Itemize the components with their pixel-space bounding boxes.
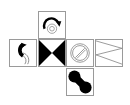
bowtie-icon [39,40,65,66]
prohibited-circle-icon [67,40,93,66]
face-bottom [66,68,94,96]
curved-arrow-circle-icon [39,12,65,38]
zigzag-icon [96,40,122,66]
face-left [9,39,37,67]
face-center [38,39,66,67]
face-far-right [95,39,123,67]
s-curve-icon [10,40,36,66]
face-top [38,11,66,39]
face-right [66,39,94,67]
two-dots-icon [67,69,93,95]
